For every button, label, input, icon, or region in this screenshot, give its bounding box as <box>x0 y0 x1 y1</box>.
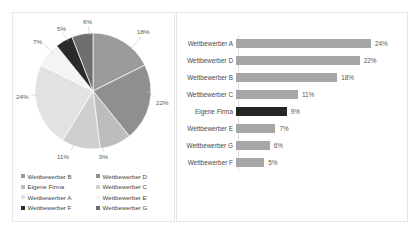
bar-chart-panel: Wettbewerber A24%Wettbewerber D22%Wettbe… <box>176 12 408 222</box>
bar-fill[interactable] <box>236 39 371 48</box>
legend-item-label: Wettbewerber F <box>28 204 72 211</box>
bar-category-label: Wettbewerber A <box>177 40 236 47</box>
bar-category-label: Wettbewerber B <box>177 74 236 81</box>
bar-fill[interactable] <box>236 56 360 65</box>
pie-slice-label: 18% <box>137 28 150 35</box>
pie-slice-label: 5% <box>57 25 66 32</box>
legend-item-label: Wettbewerber E <box>103 194 147 201</box>
bar-fill-highlighted[interactable] <box>236 107 287 116</box>
pie-legend-item[interactable]: Wettbewerber A <box>21 192 94 203</box>
bar-category-label: Wettbewerber D <box>177 57 236 64</box>
bar-category-label: Eigene Firma <box>177 108 236 115</box>
pie-slice-label: 9% <box>99 153 108 160</box>
bar-value-label: 18% <box>341 74 354 81</box>
pie-chart-area: 18%22%9%11%24%7%5%6% <box>13 13 174 168</box>
bar-track: 5% <box>236 154 407 171</box>
bar-fill[interactable] <box>236 73 337 82</box>
bar-category-label: Wettbewerber G <box>177 142 236 149</box>
pie-legend-item[interactable]: Wettbewerber G <box>96 203 169 214</box>
bar-track: 6% <box>236 137 407 154</box>
chart-page: 18%22%9%11%24%7%5%6% Wettbewerber BWettb… <box>0 0 420 234</box>
bar-row[interactable]: Wettbewerber D22% <box>177 52 407 69</box>
bar-value-label: 9% <box>291 108 300 115</box>
bar-value-label: 5% <box>268 159 277 166</box>
legend-item-label: Wettbewerber C <box>103 183 148 190</box>
pie-slice-label: 6% <box>83 18 92 25</box>
bar-fill[interactable] <box>236 158 264 167</box>
legend-color-swatch <box>96 185 100 189</box>
bar-track: 24% <box>236 35 407 52</box>
bar-fill[interactable] <box>236 141 270 150</box>
legend-item-label: Wettbewerber A <box>28 194 72 201</box>
bar-category-label: Wettbewerber F <box>177 159 236 166</box>
pie-legend-item[interactable]: Wettbewerber B <box>21 171 94 182</box>
bar-track: 7% <box>236 120 407 137</box>
bar-track: 22% <box>236 52 407 69</box>
bar-fill[interactable] <box>236 124 275 133</box>
pie-slice-label: 22% <box>156 99 169 106</box>
bar-track: 11% <box>236 86 407 103</box>
bar-row[interactable]: Wettbewerber B18% <box>177 69 407 86</box>
pie-legend-item[interactable]: Wettbewerber C <box>96 182 169 193</box>
bar-row[interactable]: Wettbewerber E7% <box>177 120 407 137</box>
legend-item-label: Wettbewerber B <box>28 173 72 180</box>
pie-label-leader-line <box>131 37 141 49</box>
legend-item-label: Wettbewerber D <box>103 173 148 180</box>
legend-color-swatch <box>21 195 25 199</box>
legend-color-swatch <box>96 174 100 178</box>
pie-legend-item[interactable]: Wettbewerber E <box>96 192 169 203</box>
pie-chart-panel: 18%22%9%11%24%7%5%6% Wettbewerber BWettb… <box>12 12 175 222</box>
pie-slice-label: 24% <box>16 93 29 100</box>
legend-color-swatch <box>96 206 100 210</box>
bar-row[interactable]: Wettbewerber G6% <box>177 137 407 154</box>
bar-value-label: 11% <box>302 91 314 98</box>
bar-value-label: 22% <box>364 57 377 64</box>
legend-color-swatch <box>21 206 25 210</box>
pie-legend-item[interactable]: Eigene Firma <box>21 182 94 193</box>
legend-color-swatch <box>21 185 25 189</box>
bar-value-label: 6% <box>274 142 283 149</box>
bar-row[interactable]: Wettbewerber F5% <box>177 154 407 171</box>
bar-row[interactable]: Wettbewerber C11% <box>177 86 407 103</box>
bar-track: 9% <box>236 103 407 120</box>
bar-value-label: 24% <box>375 40 388 47</box>
legend-item-label: Eigene Firma <box>28 183 65 190</box>
bar-value-label: 7% <box>279 125 288 132</box>
bar-row[interactable]: Wettbewerber A24% <box>177 35 407 52</box>
legend-color-swatch <box>96 195 100 199</box>
legend-color-swatch <box>21 174 25 178</box>
bar-row[interactable]: Eigene Firma9% <box>177 103 407 120</box>
pie-label-leader-line <box>44 44 53 53</box>
bar-fill[interactable] <box>236 90 298 99</box>
pie-legend: Wettbewerber BWettbewerber DEigene Firma… <box>21 171 169 213</box>
legend-item-label: Wettbewerber G <box>103 204 148 211</box>
bar-category-label: Wettbewerber E <box>177 125 236 132</box>
bar-chart-area: Wettbewerber A24%Wettbewerber D22%Wettbe… <box>177 13 407 221</box>
pie-legend-item[interactable]: Wettbewerber D <box>96 171 169 182</box>
pie-chart-svg <box>13 13 174 168</box>
bar-category-label: Wettbewerber C <box>177 91 236 98</box>
pie-legend-item[interactable]: Wettbewerber F <box>21 203 94 214</box>
bar-track: 18% <box>236 69 407 86</box>
pie-slice-label: 7% <box>33 38 42 45</box>
pie-slice-label: 11% <box>57 153 69 160</box>
